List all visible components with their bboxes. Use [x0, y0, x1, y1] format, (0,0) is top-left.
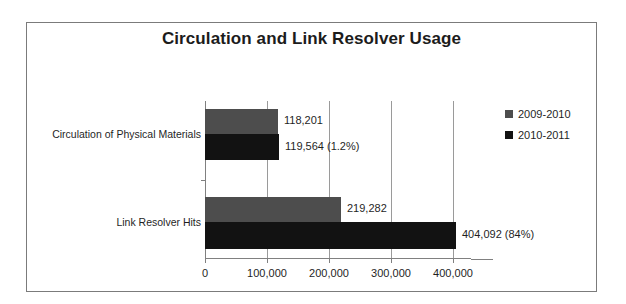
bar-link-resolver-2010-2011 [205, 222, 456, 249]
category-separator-tick [201, 180, 206, 181]
x-axis-tick-labels: 0 100,000 200,000 300,000 400,000 [205, 259, 495, 283]
category-axis-labels: Circulation of Physical Materials Link R… [33, 101, 201, 259]
xtick-label-400000: 400,000 [433, 267, 473, 279]
xtick-label-300000: 300,000 [371, 267, 411, 279]
bar-link-resolver-2009-2010 [205, 197, 341, 222]
value-label-link-resolver-2009-2010: 219,282 [347, 202, 387, 214]
chart-title: Circulation and Link Resolver Usage [27, 29, 596, 49]
xtick-label-0: 0 [202, 267, 208, 279]
chart-legend: 2009-2010 2010-2011 [505, 108, 591, 150]
legend-item-2010-2011: 2010-2011 [505, 129, 591, 141]
value-label-circulation-2010-2011: 119,564 (1.2%) [285, 140, 359, 152]
category-label-circulation: Circulation of Physical Materials [52, 128, 201, 140]
legend-label-2009-2010: 2009-2010 [518, 108, 571, 120]
legend-swatch-icon [505, 110, 513, 118]
legend-item-2009-2010: 2009-2010 [505, 108, 591, 120]
legend-label-2010-2011: 2010-2011 [518, 129, 570, 141]
plot-area: 118,201 119,564 (1.2%) 219,282 404,092 (… [205, 101, 471, 259]
value-label-circulation-2009-2010: 118,201 [284, 114, 323, 126]
chart-frame: Circulation and Link Resolver Usage 118,… [26, 22, 597, 292]
bar-circulation-2010-2011 [205, 134, 279, 160]
xtick-label-200000: 200,000 [309, 267, 349, 279]
category-label-link-resolver: Link Resolver Hits [116, 216, 201, 228]
legend-swatch-icon [505, 131, 513, 139]
xtick-label-100000: 100,000 [247, 267, 287, 279]
bar-circulation-2009-2010 [205, 109, 278, 134]
value-label-link-resolver-2010-2011: 404,092 (84%) [462, 228, 534, 240]
